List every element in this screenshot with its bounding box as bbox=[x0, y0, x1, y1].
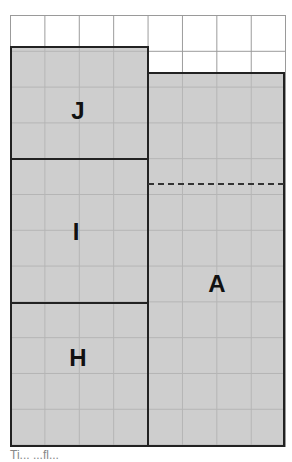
block-h-label: H bbox=[69, 344, 86, 372]
block-h bbox=[10, 302, 149, 447]
dashed-divider-line bbox=[148, 183, 284, 185]
footer-caption: Ti... ...fl... bbox=[10, 448, 59, 462]
block-i bbox=[10, 158, 149, 304]
block-a bbox=[147, 72, 285, 447]
block-i-label: I bbox=[73, 218, 80, 246]
block-j-label: J bbox=[71, 97, 84, 125]
block-a-label: A bbox=[208, 270, 225, 298]
